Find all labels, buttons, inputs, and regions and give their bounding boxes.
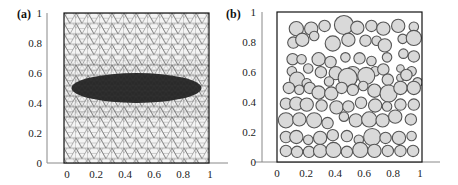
particle [325, 36, 340, 51]
particle [330, 101, 343, 114]
particle [295, 85, 305, 95]
x-tick: 0.4 [118, 168, 132, 180]
particle [407, 81, 420, 94]
particle [405, 114, 416, 125]
particle [355, 97, 366, 108]
particle [283, 82, 294, 93]
particle [362, 112, 377, 127]
panel-a: (a) 1 0.8 0.6 0.4 0.2 0 0 0.2 0.4 0.6 0.… [17, 7, 228, 180]
particle [359, 81, 369, 91]
particle [341, 146, 352, 157]
particle [280, 145, 291, 156]
particle [349, 114, 362, 127]
particle [395, 145, 406, 156]
particle [368, 144, 381, 157]
panel-a-y-ticks: 1 0.8 0.6 0.4 0.2 0 [28, 7, 42, 169]
particle [382, 74, 393, 85]
particle [303, 64, 313, 74]
y-tick: 0.2 [242, 126, 256, 138]
particle [313, 144, 326, 157]
particle [377, 22, 390, 35]
particle [382, 145, 393, 156]
particle [406, 30, 421, 45]
x-tick: 0.6 [357, 167, 371, 179]
particle [360, 35, 371, 46]
particle [327, 129, 338, 140]
x-tick: 0.2 [89, 168, 103, 180]
x-tick: 0.8 [176, 168, 190, 180]
particle [341, 53, 351, 63]
particle [382, 53, 392, 63]
particle [326, 142, 341, 157]
y-tick: 0.8 [28, 37, 42, 49]
x-tick: 1 [207, 168, 213, 180]
y-tick: 0.6 [28, 67, 42, 79]
x-tick: 0 [64, 168, 70, 180]
particle [325, 56, 336, 67]
particle [347, 84, 358, 95]
particle [366, 20, 377, 31]
x-tick: 0 [274, 167, 280, 179]
particle [407, 131, 417, 141]
panel-b: (b) 1 0.8 0.6 0.4 0.2 0 0 0.2 0.4 0.6 0.… [226, 6, 440, 179]
particle [407, 145, 418, 156]
particle [290, 130, 303, 143]
particle [322, 117, 333, 128]
particle [307, 113, 322, 128]
particle [351, 21, 364, 34]
y-tick: 0.2 [28, 127, 42, 139]
particle [303, 135, 313, 145]
y-tick: 0.8 [242, 36, 256, 48]
y-tick: 0 [251, 156, 257, 168]
particle [367, 56, 377, 66]
particle [341, 130, 352, 141]
particle [300, 98, 313, 111]
y-tick: 1 [37, 7, 43, 19]
y-tick: 0.4 [242, 96, 256, 108]
x-tick: 0.4 [328, 167, 342, 179]
particle [399, 49, 409, 59]
x-tick: 1 [417, 167, 423, 179]
particle [312, 53, 325, 66]
panel-b-label: (b) [226, 7, 241, 21]
particle [336, 82, 347, 93]
panel-a-label: (a) [17, 7, 31, 21]
particle [382, 102, 392, 112]
particle [312, 86, 325, 99]
particle [376, 114, 389, 127]
particle [364, 128, 381, 145]
particle [334, 15, 353, 34]
particle [353, 142, 368, 157]
y-tick: 1 [251, 6, 257, 18]
particle [395, 99, 406, 110]
particle [392, 19, 405, 32]
particle [392, 131, 405, 144]
x-tick: 0.2 [299, 167, 313, 179]
panel-a-mesh [64, 13, 209, 163]
particle [278, 113, 293, 128]
y-tick: 0 [37, 157, 43, 169]
particle [324, 77, 334, 87]
particle [303, 146, 314, 157]
particle [313, 131, 326, 144]
particle [408, 51, 419, 62]
panel-a-x-ticks: 0 0.2 0.4 0.6 0.8 1 [64, 168, 213, 180]
particle [401, 69, 412, 80]
particle [394, 81, 407, 94]
particle [380, 132, 391, 143]
particle [354, 53, 365, 64]
particle [293, 113, 306, 126]
particle [389, 110, 402, 123]
y-tick: 0.4 [28, 97, 42, 109]
x-tick: 0.6 [147, 168, 161, 180]
particle [309, 31, 319, 41]
particle [378, 39, 391, 52]
particle [339, 112, 349, 122]
particle [369, 99, 382, 112]
particle [297, 54, 307, 64]
particle [408, 99, 419, 110]
particle [315, 66, 326, 77]
panel-b-y-ticks: 1 0.8 0.6 0.4 0.2 0 [242, 6, 256, 168]
particle [342, 33, 355, 46]
particle [319, 20, 330, 31]
